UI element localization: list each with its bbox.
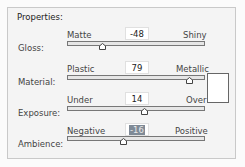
gloss-value-input[interactable]: -48 (125, 27, 149, 40)
ambience-slider-thumb[interactable] (120, 138, 127, 145)
exposure-slider-thumb[interactable] (141, 108, 148, 115)
material-value: 79 (132, 63, 143, 73)
exposure-slider-track[interactable] (67, 106, 205, 111)
gloss-label: Gloss: (18, 43, 44, 53)
gloss-min-label: Matte (67, 30, 91, 40)
gloss-value: -48 (130, 29, 144, 39)
gloss-max-label: Shiny (183, 30, 207, 40)
panel-title: Properties: (17, 12, 63, 22)
ambience-label: Ambience: (18, 139, 63, 149)
color-swatch[interactable] (207, 73, 229, 103)
material-slider-thumb[interactable] (186, 77, 193, 84)
exposure-max-label: Over (186, 95, 206, 105)
exposure-value: 14 (132, 94, 143, 104)
gloss-slider-track[interactable] (67, 41, 205, 46)
ambience-slider-track[interactable] (67, 136, 205, 141)
material-max-label: Metallic (176, 64, 209, 74)
exposure-label: Exposure: (18, 108, 60, 118)
material-label: Material: (18, 77, 55, 87)
gloss-slider-thumb[interactable] (99, 43, 106, 50)
material-min-label: Plastic (67, 64, 95, 74)
exposure-min-label: Under (67, 95, 93, 105)
exposure-value-input[interactable]: 14 (125, 92, 149, 105)
ambience-max-label: Positive (175, 126, 208, 136)
ambience-value: -16 (129, 125, 145, 135)
ambience-min-label: Negative (67, 126, 105, 136)
material-value-input[interactable]: 79 (125, 61, 149, 74)
material-slider-track[interactable] (67, 75, 205, 80)
ambience-value-input[interactable]: -16 (125, 123, 149, 136)
